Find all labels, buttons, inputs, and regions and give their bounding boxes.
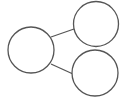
node-link-diagram <box>0 0 133 102</box>
node-left <box>8 27 54 73</box>
edge-left-top-right <box>51 29 74 37</box>
diagram-canvas <box>0 0 133 102</box>
node-bottom-right <box>72 50 118 96</box>
edge-left-bottom-right <box>51 64 73 74</box>
node-top-right <box>74 2 119 47</box>
